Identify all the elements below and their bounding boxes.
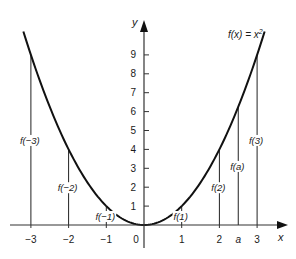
y-axis-label: y [131,16,139,28]
x-ticks: −3−2−1012a3 [25,225,260,245]
y-tick-label: 5 [130,125,136,136]
y-tick-label: 8 [130,68,136,79]
segment-labels: f(−3)f(−2)f(−1)f(1)f(2)f(a)f(3) [19,135,264,222]
x-tick-label: −2 [63,234,75,245]
y-axis-arrow-icon [140,20,148,32]
y-ticks: 123456789 [130,49,149,211]
y-tick-label: 7 [130,87,136,98]
y-tick-label: 1 [130,201,136,212]
segment-label: f(a) [230,161,244,172]
y-tick-label: 6 [130,106,136,117]
segment-label: f(3) [249,135,263,146]
chart-title-sup: 2 [258,28,263,35]
chart-title-main: f(x) = x [228,29,260,40]
chart-title: f(x) = x2 [228,28,263,40]
x-tick-label: a [235,234,241,245]
segment-label: f(1) [174,211,188,222]
x-tick-label: 1 [179,234,185,245]
x-axis-arrow-icon [277,221,288,229]
segment-label: f(−3) [20,135,40,146]
y-tick-label: 2 [130,182,136,193]
segment-label: f(−1) [95,211,115,222]
parabola-chart: −3−2−1012a3 123456789 f(−3)f(−2)f(−1)f(1… [0,0,296,259]
segment-label: f(−2) [58,182,78,193]
segment-label: f(2) [211,182,225,193]
x-tick-label: 3 [254,234,260,245]
x-axis-label: x [277,231,284,243]
y-tick-label: 4 [130,144,136,155]
x-tick-label: −1 [101,234,113,245]
x-tick-label: 0 [133,234,139,245]
y-tick-label: 3 [130,163,136,174]
y-tick-label: 9 [130,49,136,60]
x-tick-label: 2 [217,234,223,245]
x-tick-label: −3 [25,234,37,245]
